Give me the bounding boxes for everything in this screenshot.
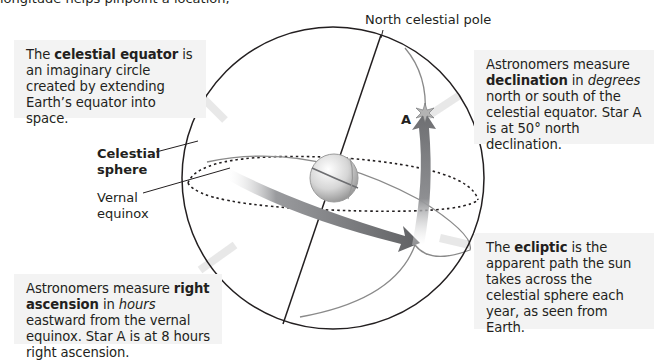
callout-term: declination bbox=[486, 73, 568, 88]
ecliptic-path-lower bbox=[300, 245, 415, 317]
callout-emphasis: degrees bbox=[588, 73, 641, 88]
callout-ecliptic: The ecliptic is the apparent path the su… bbox=[474, 233, 654, 329]
star-a-label: A bbox=[401, 112, 411, 128]
vernal-equinox-label-2: equinox bbox=[97, 206, 149, 222]
callout-declination: Astronomers measure declination in degre… bbox=[474, 50, 654, 144]
vernal-equinox-leader bbox=[143, 168, 230, 193]
celestial-sphere-label-1: Celestial bbox=[97, 146, 160, 162]
callout-text: in bbox=[568, 73, 588, 88]
callout-text: The bbox=[26, 47, 54, 62]
star-meridian bbox=[405, 48, 425, 115]
callout-celestial-equator: The celestial equator is an imaginary ci… bbox=[14, 40, 206, 118]
celestial-sphere-leader bbox=[156, 141, 198, 152]
vernal-equinox-label-1: Vernal bbox=[97, 190, 138, 206]
callout-text: Astronomers measure bbox=[26, 281, 174, 296]
earth-globe bbox=[310, 154, 358, 202]
callout-text: eastward from the vernal equinox. Star A… bbox=[26, 313, 210, 360]
callout-text: The bbox=[486, 240, 514, 255]
callout-text: in bbox=[99, 297, 119, 312]
north-celestial-pole-label: North celestial pole bbox=[365, 12, 491, 28]
callout-right-ascension: Astronomers measure right ascension in h… bbox=[14, 274, 222, 344]
callout-emphasis: hours bbox=[119, 297, 156, 312]
celestial-sphere-label-2: sphere bbox=[97, 162, 147, 178]
callout-term: ecliptic bbox=[514, 240, 567, 255]
declination-arrow bbox=[412, 112, 436, 245]
north-pole-leader bbox=[381, 30, 383, 38]
callout-text: Astronomers measure bbox=[486, 57, 630, 72]
callout-term: celestial equator bbox=[54, 47, 178, 62]
callout-text: north or south of the celestial equator.… bbox=[486, 89, 641, 152]
